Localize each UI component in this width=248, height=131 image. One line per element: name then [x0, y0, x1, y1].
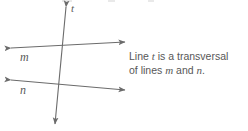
- caption-text-2a: of lines: [129, 64, 165, 76]
- line-t-transversal: [55, 7, 66, 124]
- caption-text-1a: Line: [129, 50, 152, 62]
- caption-line-1: Line t is a transversal: [129, 50, 247, 64]
- caption-text-2c: .: [202, 64, 205, 76]
- line-label-t: t: [71, 3, 74, 14]
- caption-line-2: of lines m and n.: [129, 64, 247, 78]
- caption-text-2b: and: [173, 64, 196, 76]
- line-label-n: n: [20, 84, 26, 96]
- figure-caption: Line t is a transversal of lines m and n…: [129, 50, 247, 77]
- line-m: [11, 42, 125, 48]
- line-n: [11, 80, 125, 90]
- caption-text-1b: is a transversal: [155, 50, 229, 62]
- line-label-m: m: [20, 51, 29, 63]
- caption-var-m: m: [165, 64, 173, 76]
- figure-screenshot: t m n Line t is a transversal of lines m…: [0, 0, 248, 131]
